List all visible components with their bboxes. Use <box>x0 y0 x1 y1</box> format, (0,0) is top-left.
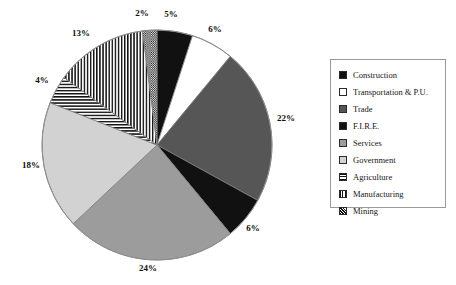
legend-item-label: Construction <box>353 70 397 80</box>
pie-percent-label: 6% <box>246 223 260 233</box>
pie-percent-label: 22% <box>277 113 295 123</box>
legend-item-label: Mining <box>353 206 378 216</box>
pie-percent-label: 6% <box>208 24 222 34</box>
legend-item[interactable]: Government <box>339 152 447 168</box>
pie-percent-label: 24% <box>139 263 157 273</box>
legend-swatch-icon <box>339 122 347 130</box>
legend-swatch-icon <box>339 156 347 164</box>
legend-item[interactable]: Mining <box>339 203 447 219</box>
legend-swatch-icon <box>339 105 347 113</box>
legend-swatch-icon <box>339 139 347 147</box>
legend-list: ConstructionTransportation & P.U.TradeF.… <box>339 67 447 220</box>
legend-swatch-icon <box>339 88 347 96</box>
pie-percent-label: 4% <box>35 75 49 85</box>
legend-item-label: Agriculture <box>353 172 392 182</box>
pie-percent-label: 13% <box>72 28 90 38</box>
legend-item[interactable]: F.I.R.E. <box>339 118 447 134</box>
legend-swatch-icon <box>339 207 347 215</box>
pie-percent-label: 2% <box>135 8 149 18</box>
legend-item[interactable]: Agriculture <box>339 169 447 185</box>
pie-chart-panel: 5%6%22%6%24%18%4%13%2% <box>0 0 320 285</box>
legend-swatch-icon <box>339 71 347 79</box>
legend-item[interactable]: Services <box>339 135 447 151</box>
legend-item-label: Manufacturing <box>353 189 404 199</box>
legend-item-label: Trade <box>353 104 373 114</box>
legend-item[interactable]: Manufacturing <box>339 186 447 202</box>
legend-item-label: F.I.R.E. <box>353 121 379 131</box>
legend-swatch-icon <box>339 190 347 198</box>
legend-item-label: Transportation & P.U. <box>353 87 428 97</box>
legend-item-label: Services <box>353 138 382 148</box>
legend-item[interactable]: Trade <box>339 101 447 117</box>
pie-slices-group <box>42 30 272 260</box>
legend-item[interactable]: Construction <box>339 67 447 83</box>
pie-chart-svg <box>0 0 320 285</box>
pie-percent-label: 18% <box>22 160 40 170</box>
pie-percent-label: 5% <box>164 9 178 19</box>
legend-item[interactable]: Transportation & P.U. <box>339 84 447 100</box>
legend-item-label: Government <box>353 155 396 165</box>
legend-box: ConstructionTransportation & P.U.TradeF.… <box>330 59 446 208</box>
legend-swatch-icon <box>339 173 347 181</box>
